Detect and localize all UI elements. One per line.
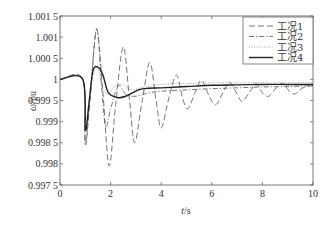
legend-label: 工况2 <box>277 31 303 42</box>
y-axis-label-var: ω <box>27 104 38 111</box>
y-tick-label: 1.000 5 <box>28 53 58 64</box>
y-tick-label: 0.999 <box>36 116 59 127</box>
legend-label: 工况1 <box>277 21 303 32</box>
x-tick-label: 10 <box>308 188 318 199</box>
y-tick-label: 1.001 5 <box>28 11 58 22</box>
x-tick-label: 8 <box>260 188 265 199</box>
y-tick-label: 0.997 5 <box>28 180 58 191</box>
y-tick-label: 0.998 5 <box>28 137 58 148</box>
x-tick-label: 4 <box>159 188 164 199</box>
x-tick-label: 0 <box>58 188 63 199</box>
line-chart: 0.997 50.9980.998 50.9990.999 511.000 51… <box>0 0 330 226</box>
y-tick-label: 1 <box>53 74 58 85</box>
x-axis-label-unit: /s <box>184 205 191 216</box>
y-tick-label: 0.998 <box>36 158 59 169</box>
y-axis-label-unit: /pu <box>27 91 38 104</box>
x-tick-label: 2 <box>108 188 113 199</box>
legend-label: 工况4 <box>277 52 303 63</box>
x-tick-label: 6 <box>209 188 214 199</box>
x-axis-label: t/s <box>181 205 191 216</box>
y-tick-label: 1.001 <box>36 32 59 43</box>
legend: 工况1工况2工况3工况4 <box>243 17 313 64</box>
y-axis-label: ω/pu <box>27 91 38 111</box>
legend-label: 工况3 <box>277 42 303 53</box>
